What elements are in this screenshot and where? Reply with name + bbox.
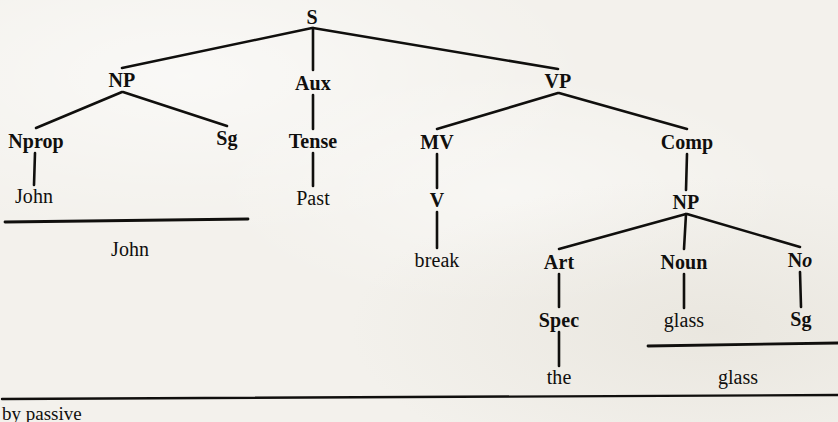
tree-branch-Nprop-to-John_t [34,153,35,185]
tree-node-vp: VP [545,71,572,91]
tree-branch-No-to-Sg2 [800,272,801,307]
tree-node-john: John [15,186,53,206]
tree-node-nprop: Nprop [8,131,64,151]
tree-node-s: S [306,7,317,27]
tree-node-glass: glass [664,310,705,330]
tree-branch-S-to-NP1 [122,28,312,68]
tree-branch-VP-to-Comp [559,93,687,129]
tree-branch-NP1-to-Nprop [36,92,122,128]
tree-branches-layer [0,0,838,422]
tree-node-np: NP [109,70,136,90]
tree-node-v: V [430,190,445,210]
tree-node-no: No [788,250,813,270]
tree-node-the: the [547,367,572,387]
tree-branch-S-to-VP [313,28,558,69]
tree-branch-Comp-to-NP2 [686,154,687,190]
tree-node-past: Past [296,188,330,208]
tree-node-tense: Tense [289,131,338,151]
tree-node-sg: Sg [216,128,237,148]
tree-node-aux: Aux [295,73,331,93]
summary-label-sum-john: John [111,239,149,259]
summary-rule-sum-glass [648,343,838,346]
tree-branch-VP-to-MV [437,93,558,129]
tree-branch-NP2-to-Art [559,214,686,249]
tree-node-sg: Sg [790,309,811,329]
tree-diagram-page: SNPAuxVPNpropSgTenseMVCompJohnPastVNPbre… [0,0,838,422]
tree-node-break: break [415,250,460,270]
tree-node-art: Art [544,252,574,272]
tree-branch-NP2-to-Noun [684,214,686,249]
tree-node-np: NP [673,192,700,212]
tree-node-mv: MV [420,132,454,152]
bottom-divider-rule [2,395,838,399]
tree-node-spec: Spec [539,310,579,330]
tree-node-comp: Comp [661,132,714,152]
summary-rule-sum-john [5,219,248,222]
footnote-by-passive: by passive [2,404,82,422]
tree-branch-NP1-to-Sg1 [123,92,227,126]
tree-branch-NP2-to-No [687,214,800,247]
tree-node-noun: Noun [660,252,707,272]
summary-label-sum-glass: glass [718,367,758,387]
